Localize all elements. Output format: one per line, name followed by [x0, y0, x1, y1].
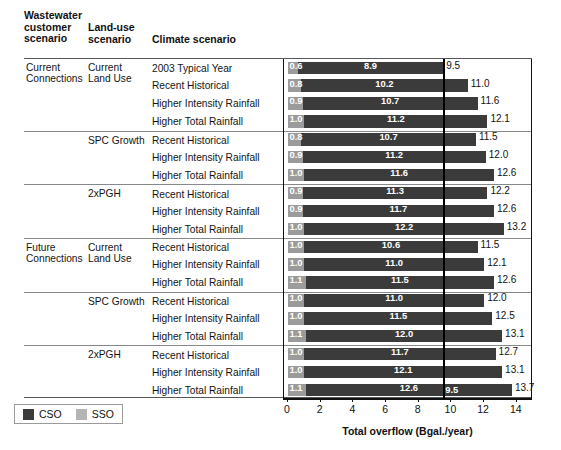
x-axis-tick [516, 398, 517, 402]
bar-row: 1.112.013.1 [284, 327, 533, 345]
chart-legend: CSO SSO [14, 404, 123, 424]
reference-line-label: 9.5 [445, 384, 458, 395]
bar-label-cso: 11.0 [304, 256, 484, 268]
bar-label-cso: 12.6 [306, 381, 512, 393]
bar-label-sso: 1.0 [290, 220, 303, 232]
cell-landuse-scenario: SPC Growth [88, 135, 152, 146]
bar-chart-plot-area: 0.68.99.50.810.211.00.910.711.61.011.212… [283, 59, 532, 399]
lu-line1: 2xPGH [88, 349, 121, 360]
cell-landuse-scenario: 2xPGH [88, 349, 152, 360]
lu-line1: Current [88, 242, 122, 253]
cell-climate-scenario: Higher Total Rainfall [152, 277, 243, 288]
bar-row: 1.011.012.1 [284, 256, 533, 274]
data-table: CurrentConnectionsCurrentLand Use2003 Ty… [24, 58, 532, 398]
legend-swatch-sso-icon [76, 409, 87, 420]
header-wastewater-line2: customer [24, 21, 71, 33]
bar-label-cso: 10.2 [301, 77, 468, 89]
x-axis-tick [352, 398, 353, 402]
header-landuse-line2: scenario [88, 33, 131, 45]
bar-label-total: 13.2 [507, 220, 526, 232]
header-wastewater-line1: Wastewater [24, 9, 82, 21]
bar-label-sso: 0.9 [290, 202, 303, 214]
x-axis-tick-label: 10 [445, 403, 457, 415]
bar-row: 1.011.012.0 [284, 292, 533, 310]
cell-climate-scenario: Higher Total Rainfall [152, 385, 243, 396]
bar-label-total: 11.0 [471, 77, 490, 89]
bar-row: 1.112.613.7 [284, 381, 533, 399]
bar-label-total: 13.1 [505, 327, 524, 339]
cell-climate-scenario: Higher Intensity Rainfall [152, 313, 260, 324]
bar-label-cso: 11.7 [304, 345, 495, 357]
bar-label-sso: 1.1 [290, 381, 303, 393]
bar-row: 0.68.99.5 [284, 59, 533, 77]
x-axis-tick [320, 398, 321, 402]
legend-label-sso: SSO [92, 408, 114, 420]
bar-label-cso: 10.6 [304, 238, 477, 250]
lu-line1: 2xPGH [88, 188, 121, 199]
bar-label-total: 12.5 [495, 310, 514, 322]
bar-label-total: 11.5 [481, 238, 500, 250]
bar-row: 0.810.211.0 [284, 77, 533, 95]
bar-label-total: 11.5 [479, 131, 498, 143]
bar-row: 0.910.711.6 [284, 95, 533, 113]
legend-item-sso: SSO [76, 408, 114, 420]
bar-row: 1.111.512.6 [284, 274, 533, 292]
x-axis-tick-label: 2 [317, 403, 323, 415]
bar-label-sso: 1.0 [290, 363, 303, 375]
bar-label-total: 12.0 [487, 292, 506, 304]
bar-label-sso: 1.0 [290, 345, 303, 357]
bar-label-sso: 1.0 [290, 310, 303, 322]
cell-climate-scenario: Recent Historical [152, 80, 229, 91]
bar-label-sso: 0.9 [290, 184, 303, 196]
bar-label-cso: 11.2 [303, 148, 486, 160]
bar-label-cso: 11.7 [303, 202, 494, 214]
bar-label-cso: 11.5 [304, 310, 492, 322]
legend-item-cso: CSO [23, 408, 62, 420]
bar-label-total: 13.1 [505, 363, 524, 375]
bar-row: 0.810.711.5 [284, 131, 533, 149]
header-climate-scenario: Climate scenario [152, 34, 282, 46]
bar-label-cso: 12.0 [306, 327, 502, 339]
x-axis-tick [385, 398, 386, 402]
x-axis-title: Total overflow (Bgal./year) [283, 425, 532, 437]
bar-label-cso: 8.9 [298, 59, 443, 71]
bar-label-sso: 1.1 [290, 274, 303, 286]
bar-label-sso: 1.0 [290, 113, 303, 125]
header-wastewater-scenario: Wastewater customer scenario [24, 10, 94, 45]
cell-climate-scenario: Higher Total Rainfall [152, 116, 243, 127]
cell-climate-scenario: 2003 Typical Year [152, 63, 232, 74]
cell-climate-scenario: Higher Total Rainfall [152, 331, 243, 342]
lu-line1: Current [88, 62, 122, 73]
bar-label-sso: 1.0 [290, 292, 303, 304]
ww-line1: Future [26, 242, 55, 253]
cell-climate-scenario: Recent Historical [152, 350, 229, 361]
bar-label-total: 12.6 [497, 274, 516, 286]
bar-label-total: 12.1 [490, 113, 509, 125]
bar-label-total: 12.6 [497, 202, 516, 214]
bar-label-sso: 0.9 [290, 95, 303, 107]
bar-row: 1.010.611.5 [284, 238, 533, 256]
header-landuse-line1: Land-use [88, 21, 135, 33]
bar-row: 1.011.612.6 [284, 166, 533, 184]
bar-label-total: 12.7 [499, 345, 518, 357]
bar-label-cso: 11.6 [304, 166, 494, 178]
bar-label-sso: 0.9 [290, 148, 303, 160]
ww-line1: Current [26, 62, 60, 73]
bar-label-total: 13.7 [515, 381, 534, 393]
bar-label-sso: 1.1 [290, 327, 303, 339]
cell-climate-scenario: Higher Intensity Rainfall [152, 98, 260, 109]
bar-label-sso: 1.0 [290, 238, 303, 250]
bar-row: 1.012.213.2 [284, 220, 533, 238]
bar-label-sso: 1.0 [290, 256, 303, 268]
x-axis: 02468101214 [283, 398, 532, 399]
x-axis-tick [450, 398, 451, 402]
bar-label-cso: 10.7 [303, 95, 478, 107]
cell-landuse-scenario: 2xPGH [88, 188, 152, 199]
bar-label-cso: 12.2 [304, 220, 503, 232]
x-axis-tick-label: 8 [415, 403, 421, 415]
bar-label-total: 9.5 [446, 59, 460, 71]
bar-label-total: 11.6 [481, 95, 500, 107]
bar-label-cso: 11.5 [306, 274, 494, 286]
cell-climate-scenario: Recent Historical [152, 242, 229, 253]
bar-row: 1.011.512.5 [284, 310, 533, 328]
